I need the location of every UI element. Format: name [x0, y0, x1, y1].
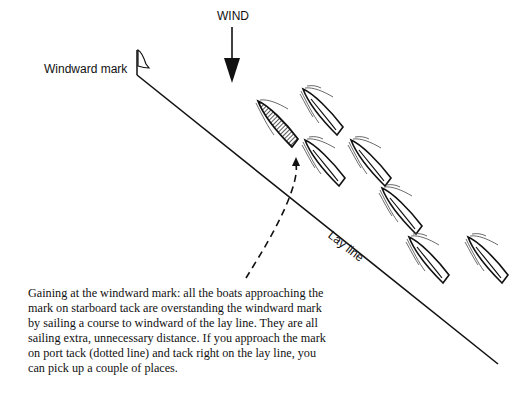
- boat-icon: [302, 137, 345, 186]
- course-arrowhead-icon: [292, 157, 300, 166]
- wind-label: WIND: [217, 9, 249, 23]
- port-tack-course-dashed: [246, 164, 296, 278]
- wind-arrow-icon: [224, 27, 240, 83]
- windward-mark-flag-icon: [137, 50, 149, 75]
- boat-icon: [465, 234, 508, 283]
- highlighted-boat-icon: [256, 100, 298, 147]
- boat-icon: [348, 137, 391, 186]
- boat-icon: [379, 185, 422, 234]
- windward-mark-label: Windward mark: [44, 62, 127, 76]
- boat-icon: [300, 86, 343, 135]
- figure-caption: Gaining at the windward mark: all the bo…: [28, 286, 328, 376]
- boat-icon: [406, 234, 449, 283]
